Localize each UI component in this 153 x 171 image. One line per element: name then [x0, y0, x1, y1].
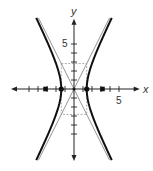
x-axis-right-arrow-icon [134, 87, 140, 92]
y-tick-label-5: 5 [62, 38, 68, 49]
x-axis-left-arrow-icon [11, 87, 17, 92]
vertex-point [84, 86, 89, 91]
x-axis-label: x [142, 83, 149, 95]
y-axis-up-arrow-icon [72, 19, 77, 25]
x-tick-label-5: 5 [116, 95, 122, 106]
vertex-point [59, 86, 64, 91]
axes [11, 19, 140, 161]
diagram-canvas: x y 5 5 [0, 0, 153, 171]
y-axis-label: y [70, 5, 78, 17]
focus-point [43, 87, 48, 92]
hyperbola-diagram: x y 5 5 [0, 0, 153, 171]
center-point [73, 88, 76, 91]
focus-point [100, 87, 105, 92]
y-axis-down-arrow-icon [72, 155, 77, 161]
